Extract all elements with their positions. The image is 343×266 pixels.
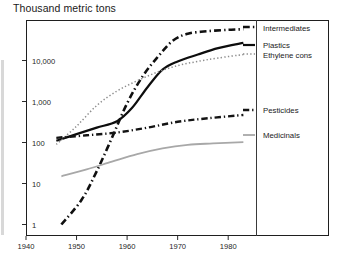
x-tick-label: 1940	[18, 242, 35, 251]
legend-label-intermediates: Intermediates	[263, 24, 310, 33]
series-line-medicinals	[61, 142, 243, 176]
y-tick-label: 100	[32, 138, 45, 147]
legend-item-pesticides: Pesticides	[263, 106, 299, 116]
legend-item-medicinals: Medicinals	[263, 131, 300, 141]
legend-item-intermediates: Intermediates	[263, 24, 310, 34]
axis-ticks-group	[22, 61, 228, 241]
legend-item-plastics: Plastics	[263, 41, 290, 51]
legend-item-ethylene: Ethylene cons	[263, 51, 312, 61]
legend-label-plastics: Plastics	[263, 41, 290, 50]
legend-swatch-group	[243, 27, 255, 135]
y-tick-label: 1	[32, 220, 36, 229]
x-tick-label: 1950	[68, 242, 85, 251]
x-tick-label: 1980	[220, 242, 237, 251]
y-tick-label: 1,000	[32, 97, 51, 106]
legend-label-medicinals: Medicinals	[263, 131, 300, 140]
x-tick-label: 1970	[169, 242, 186, 251]
x-tick-label: 1960	[119, 242, 136, 251]
y-tick-label: 10,000	[32, 56, 55, 65]
legend-label-ethylene-cons: Ethylene cons	[263, 51, 312, 60]
y-tick-label: 10	[32, 179, 40, 188]
series-line-pesticides	[56, 115, 243, 138]
chart-figure: Thousand metric tons 1101001,00010,000 1…	[0, 0, 343, 266]
series-group	[56, 29, 243, 224]
legend-label-pesticides: Pesticides	[263, 106, 299, 115]
